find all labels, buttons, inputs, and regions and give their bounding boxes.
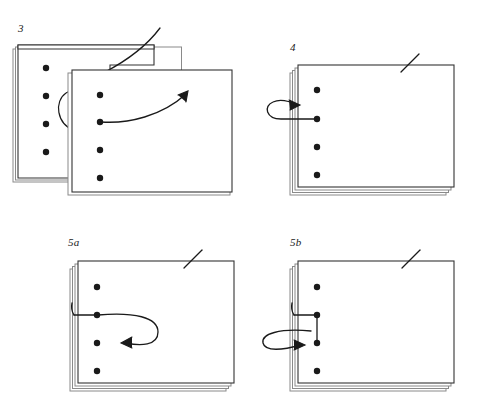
panel-3-illustration: [0, 0, 239, 204]
panel-5b-label: 5b: [290, 236, 302, 248]
panel-4: 4: [239, 0, 478, 204]
panel-5b: 5b: [239, 204, 478, 407]
panel-3-label: 3: [18, 22, 24, 34]
panel-5a-label: 5a: [68, 236, 80, 248]
panel-5a: 5a: [0, 204, 239, 407]
panel-4-label: 4: [290, 41, 296, 53]
figure-root: 3: [0, 0, 478, 407]
panel-4-front-sheet: [298, 65, 454, 187]
panel-5a-front-sheet: [78, 261, 234, 383]
panel-5a-illustration: [0, 204, 239, 407]
panel-3-front-sheet: [72, 70, 232, 192]
panel-3: 3: [0, 0, 239, 204]
panel-5b-illustration: [239, 204, 478, 407]
panel-4-illustration: [239, 0, 478, 204]
panel-5b-front-sheet: [298, 261, 454, 383]
